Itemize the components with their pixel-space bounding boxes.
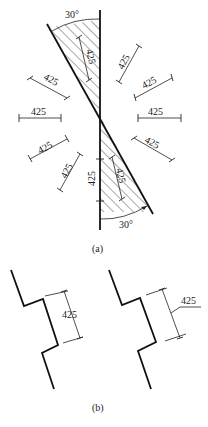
caption-a: (a) bbox=[92, 243, 103, 255]
svg-text:425: 425 bbox=[36, 139, 54, 156]
stepped-line-right bbox=[109, 270, 156, 389]
stepped-line-left bbox=[11, 270, 58, 389]
dimension-lower-left: 425 bbox=[28, 135, 69, 162]
svg-text:425: 425 bbox=[143, 134, 161, 151]
svg-text:425: 425 bbox=[181, 295, 196, 306]
hatched-region-upper bbox=[50, 20, 100, 116]
angle-label-bottom: 30° bbox=[119, 219, 133, 230]
dimension-lower-left-steep: 425 bbox=[57, 152, 83, 192]
angle-label-top: 30° bbox=[65, 9, 79, 20]
dimension-right-upper: 425 bbox=[134, 74, 173, 101]
svg-text:425: 425 bbox=[62, 309, 77, 320]
dimension-upper-right-steep: 425 bbox=[115, 44, 142, 84]
dimension-right-lower: 425 bbox=[131, 134, 175, 162]
svg-text:425: 425 bbox=[31, 106, 46, 117]
dimension-left: 425 bbox=[45, 290, 83, 343]
svg-text:425: 425 bbox=[140, 74, 158, 91]
svg-text:425: 425 bbox=[148, 106, 163, 117]
figure-a: 30° 30° 425 425 425 bbox=[19, 9, 181, 255]
svg-text:425: 425 bbox=[58, 162, 75, 180]
svg-text:425: 425 bbox=[86, 171, 97, 186]
dimension-upper-left: 425 bbox=[27, 71, 70, 100]
figure-b: 425 425 (b) bbox=[11, 270, 201, 414]
diagram-canvas: 30° 30° 425 425 425 bbox=[0, 0, 208, 427]
dimension-right: 425 bbox=[146, 288, 201, 341]
dimension-left-horizontal: 425 bbox=[19, 106, 61, 122]
caption-b: (b) bbox=[92, 402, 104, 414]
dimension-right-horizontal: 425 bbox=[138, 106, 181, 122]
svg-text:425: 425 bbox=[42, 71, 60, 88]
svg-text:425: 425 bbox=[115, 53, 132, 71]
